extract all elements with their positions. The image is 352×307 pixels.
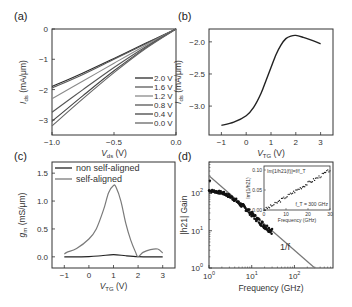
inset-data-point [282, 198, 283, 199]
inset-data-point [285, 197, 286, 198]
data-point [237, 200, 239, 202]
x-tick-label: 2 [294, 138, 299, 147]
x-tick-label: −1 [60, 271, 70, 280]
x-axis-label: VTG (V) [100, 281, 128, 292]
x-axis-label: VTG (V) [257, 148, 285, 159]
inset-data-point [317, 177, 318, 178]
inset-x-tick-label: 0 [263, 211, 266, 217]
x-tick-label: 3 [160, 271, 165, 280]
y-axis-label: Ids (mA/μm) [18, 60, 29, 104]
plot-frame [209, 29, 333, 135]
inset-data-point [270, 204, 271, 205]
inset-data-point [325, 172, 326, 173]
inset-y-axis-label: Im(1/h21) [245, 177, 251, 199]
figure: (a) (b) (c) (d) −1.0−0.50.00−1−2−3Vds (V… [0, 0, 352, 307]
y-tick-label: 100 [191, 262, 203, 273]
panel-d: 100101102100101102Frequency (GHz)|h21| G… [179, 162, 333, 293]
inset-data-point [313, 178, 314, 179]
inset-data-point [269, 207, 270, 208]
inset-data-point [266, 207, 267, 208]
inset-x-tick-label: 30 [327, 211, 333, 217]
y-tick-label: 101 [191, 225, 203, 236]
x-tick-label: 1 [269, 138, 274, 147]
y-tick-label: 0.5 [37, 225, 49, 234]
inset-data-point [278, 201, 279, 202]
inset-data-point [273, 204, 274, 205]
y-tick-label: −3 [39, 116, 49, 125]
legend-label: 2.0 V [154, 74, 173, 83]
x-tick-label: 0 [244, 138, 249, 147]
y-tick-label: 0 [44, 25, 49, 34]
legend-label: non self-aligned [76, 163, 140, 173]
data-point [248, 208, 250, 210]
inset-data-point [304, 186, 305, 187]
inset-title: Im[1/h21(f)]=f/f_T [267, 168, 306, 174]
data-point [261, 221, 263, 223]
inset-data-point [283, 196, 284, 197]
x-tick-label: 102 [288, 270, 300, 281]
data-point [271, 228, 273, 230]
data-point [266, 225, 268, 227]
x-axis-label: Vds (V) [101, 148, 127, 159]
panel-label-a: (a) [14, 10, 27, 22]
panel-c: −101230.00.51.01.5VTG (V)gm (mS/μm)non s… [17, 162, 175, 292]
y-tick-label: 0.0 [37, 253, 49, 262]
inset-data-point [272, 205, 273, 206]
data-point [235, 198, 237, 200]
annotation-1-over-f: 1/f [280, 242, 291, 252]
panel-label-d: (d) [178, 150, 191, 162]
inset-data-point [314, 180, 315, 181]
x-tick-label: 0 [87, 271, 92, 280]
series-line-0 [64, 255, 162, 257]
y-tick-label: 102 [191, 187, 203, 198]
x-tick-label: 0.0 [170, 138, 182, 147]
x-tick-label: −1 [217, 138, 227, 147]
y-tick-label: −2.5 [189, 70, 205, 79]
series-line-1 [64, 185, 162, 257]
series-line-0 [221, 35, 320, 125]
y-tick-label: −1 [39, 55, 49, 64]
legend-label: 0.8 V [154, 101, 173, 110]
inset-data-point [294, 192, 295, 193]
y-tick-label: 1.0 [37, 197, 49, 206]
inset-annotation: f_T = 300 GHz [295, 201, 328, 207]
inset-data-point [289, 194, 290, 195]
y-axis-label: gm (mS/μm) [17, 192, 28, 237]
panel-a: −1.0−0.50.00−1−2−3Vds (V)Ids (mA/μm)2.0 … [18, 25, 182, 159]
inset-data-point [293, 191, 294, 192]
y-tick-label: −2 [39, 86, 49, 95]
data-point [258, 218, 260, 220]
inset-data-point [292, 193, 293, 194]
inset-data-point [312, 181, 313, 182]
legend-label: 1.6 V [154, 83, 173, 92]
inset-data-point [329, 170, 330, 171]
inset-x-axis-label: Frequency (GHz) [278, 217, 317, 223]
x-tick-label: −1.0 [44, 138, 60, 147]
inset-data-point [323, 173, 324, 174]
data-point [209, 180, 211, 182]
inset-data-point [327, 169, 328, 170]
inset-data-point [300, 187, 301, 188]
inset-data-point [328, 171, 329, 172]
x-tick-label: −0.5 [106, 138, 122, 147]
inset-data-point [318, 175, 319, 176]
y-tick-label: −2.0 [189, 38, 205, 47]
inset-data-point [264, 210, 265, 211]
inset-data-point [267, 208, 268, 209]
panel-label-b: (b) [178, 10, 191, 22]
inset-data-point [284, 198, 285, 199]
x-tick-label: 2 [136, 271, 141, 280]
y-tick-label: 1.5 [37, 169, 49, 178]
x-axis-label: Frequency (GHz) [238, 283, 303, 293]
data-point [270, 233, 272, 235]
inset-data-point [280, 201, 281, 202]
inset-data-point [286, 196, 287, 197]
x-tick-label: 101 [246, 270, 258, 281]
inset-data-point [279, 200, 280, 201]
legend-label: self-aligned [76, 174, 122, 184]
x-tick-label: 1 [111, 271, 116, 280]
x-tick-label: 3 [318, 138, 323, 147]
legend-label: 1.2 V [154, 92, 173, 101]
inset-y-tick-label: 0.05 [252, 187, 262, 193]
legend-label: 0.0 V [154, 119, 173, 128]
